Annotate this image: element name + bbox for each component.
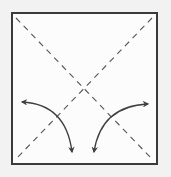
origami-diagram	[0, 0, 171, 177]
